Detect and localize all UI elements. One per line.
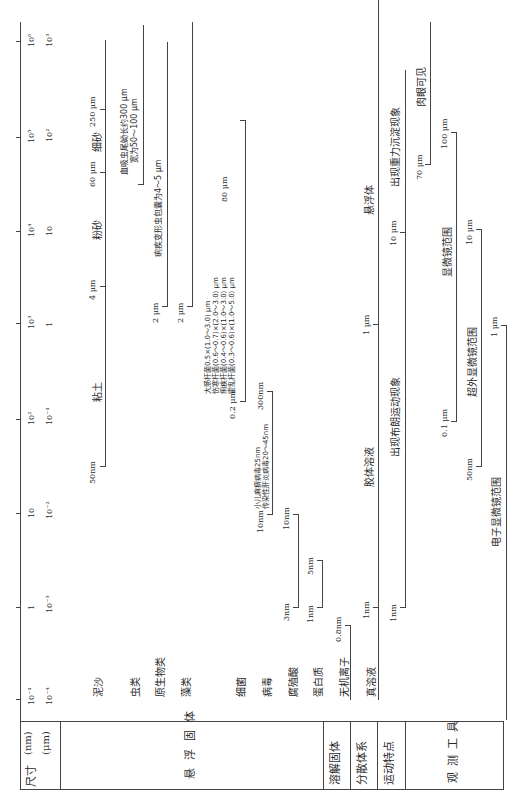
- tick-um: 10⁻²: [45, 501, 54, 519]
- dispersion-system-header: 分散体系: [357, 741, 368, 785]
- row-label-worms: 虫类: [130, 677, 141, 697]
- value-label: 70 μm: [415, 154, 424, 180]
- naked-eye-range-bar: [430, 22, 431, 165]
- virus-note: 传染性肝炎病毒20～45nm: [262, 424, 270, 509]
- value-label: 4 μm: [88, 280, 97, 300]
- value-label: 1nm: [389, 604, 398, 622]
- row-label-protozoa: 原生物类: [155, 657, 166, 697]
- value-label: 2 μm: [176, 303, 185, 323]
- value-label: 10 μm: [465, 219, 474, 245]
- row-label-algae: 藻类: [181, 677, 192, 697]
- tick-nm: 10⁻¹: [27, 687, 36, 705]
- tick-nm: 10³: [27, 316, 36, 329]
- sedimentation-label: 出现重力沉淀现象: [390, 107, 401, 187]
- worms-range-bar: [143, 25, 144, 185]
- microscope-range-bar: [456, 132, 457, 422]
- protozoa-note: 痢疾变形虫包囊为4～5 μm: [154, 159, 163, 257]
- clay-label: 粘土: [92, 382, 103, 402]
- tick-nm: 1: [27, 605, 36, 610]
- humic-acid-range-bar: [298, 514, 299, 608]
- suspension-label: 悬浮体: [364, 185, 375, 215]
- algae-range-bar: [192, 22, 193, 307]
- colloid-label: 胶体溶液: [364, 447, 375, 487]
- row-label-bacteria: 细菌: [236, 677, 247, 697]
- value-label: 5nm: [306, 557, 315, 575]
- value-label: 100 μm: [440, 118, 449, 149]
- value-label: 300nm: [256, 382, 265, 410]
- silt-label: 粉砂: [92, 220, 103, 240]
- tick-um: 10²: [45, 129, 54, 142]
- tick-nm: 10⁵: [27, 130, 36, 143]
- protein-range-bar: [322, 560, 323, 608]
- value-label: 0.2 μm: [228, 391, 237, 419]
- size-axis: [20, 22, 21, 722]
- motion-features-header: 运动特点: [384, 741, 395, 785]
- worms-note: 宽为50～100 μm: [130, 98, 139, 163]
- row-label-virus: 病毒: [262, 677, 273, 697]
- tick-nm: 10: [27, 508, 36, 518]
- particle-size-diagram: 尺寸 (nm) (μm) 悬浮固体 溶解固体 分散体系 运动特点 观测工具 10…: [0, 0, 526, 797]
- dispersion-range-bar: [378, 0, 379, 700]
- tick-nm: 10⁴: [27, 224, 36, 237]
- value-label: 1 μm: [490, 317, 499, 337]
- worms-note: 血吸虫尾蚴长约300 μm: [120, 88, 129, 175]
- row-label-humic-acid: 腐殖酸: [288, 667, 299, 697]
- unit-nm: (nm): [22, 731, 33, 755]
- tick-nm: 10⁶: [27, 34, 36, 47]
- row-label-true-solution: 真溶液: [366, 667, 377, 697]
- value-label: 3nm: [282, 603, 291, 621]
- observation-tools-header: 观测工具: [448, 715, 459, 783]
- value-label: 60 μm: [88, 161, 97, 187]
- value-label: 0.1 μm: [440, 409, 449, 437]
- suspended-solids-header: 悬浮固体: [185, 703, 196, 779]
- size-label: 尺寸: [26, 765, 37, 787]
- unit-um: (μm): [40, 731, 51, 755]
- bacteria-note: 痢疾杆菌(0.4～0.6)×(1.0～3.0) μm: [220, 277, 228, 394]
- fine-sand-label: 细砂: [92, 132, 103, 152]
- virus-range-bar: [272, 391, 273, 515]
- protozoa-range-bar: [167, 42, 168, 307]
- value-label: 0.8nm: [334, 617, 343, 642]
- value-label: 1nm: [306, 605, 315, 623]
- inorganic-ions-range-bar: [350, 625, 351, 700]
- sedimentation-range-bar: [405, 70, 406, 233]
- value-label: 1nm: [362, 601, 371, 619]
- value-label: 10nm: [256, 510, 265, 533]
- dissolved-solids-header: 溶解固体: [330, 741, 341, 785]
- tick-um: 10⁻³: [45, 595, 54, 613]
- tick-um: 10⁻¹: [45, 407, 54, 425]
- virus-note: 小儿麻痹病毒25nm: [254, 447, 262, 509]
- tick-um: 10: [45, 226, 54, 236]
- tick-nm: 10²: [27, 412, 36, 425]
- electron-microscope-label: 电子显微镜范围: [491, 477, 502, 547]
- value-label: 50nm: [465, 458, 474, 481]
- row-label-inorganic-ions: 无机离子: [339, 657, 350, 697]
- row-label-mud-sand: 泥沙: [93, 677, 104, 697]
- brownian-label: 出现布朗运动现象: [390, 377, 401, 457]
- tick-um: 10⁻⁴: [45, 687, 54, 705]
- tick-um: 1: [45, 322, 54, 327]
- bacteria-note: 霍乱杆菌(0.3～0.6)×(1.0～5.0) μm: [228, 277, 236, 394]
- bacteria-note: 伤寒杆菌(0.6～0.7)×(2.0～3.0) μm: [212, 277, 220, 394]
- header-table: [20, 721, 504, 790]
- mud-sand-range-bar: [105, 40, 106, 467]
- naked-eye-label: 肉眼可见: [416, 67, 427, 107]
- brownian-range-bar: [405, 232, 406, 608]
- electron-microscope-range-bar: [506, 325, 507, 720]
- microscope-label: 显微镜范围: [442, 227, 453, 277]
- bacteria-range-bar: [245, 120, 246, 402]
- value-label: 2 μm: [151, 303, 160, 323]
- value-label: 10 μm: [389, 220, 398, 246]
- value-label: 80 μm: [220, 176, 229, 202]
- value-label: 1 μm: [362, 315, 371, 335]
- tick-um: 10³: [45, 34, 54, 47]
- row-label-protein: 蛋白质: [313, 667, 324, 697]
- bacteria-note: 大肠杆菌0.5×(1.0～3.0) μm: [204, 301, 212, 394]
- ultra-microscope-label: 超外显微镜范围: [467, 327, 478, 397]
- value-label: 250 μm: [88, 96, 97, 127]
- ultra-microscope-range-bar: [481, 229, 482, 467]
- value-label: 50nm: [88, 461, 97, 484]
- value-label: 10nm: [282, 507, 291, 530]
